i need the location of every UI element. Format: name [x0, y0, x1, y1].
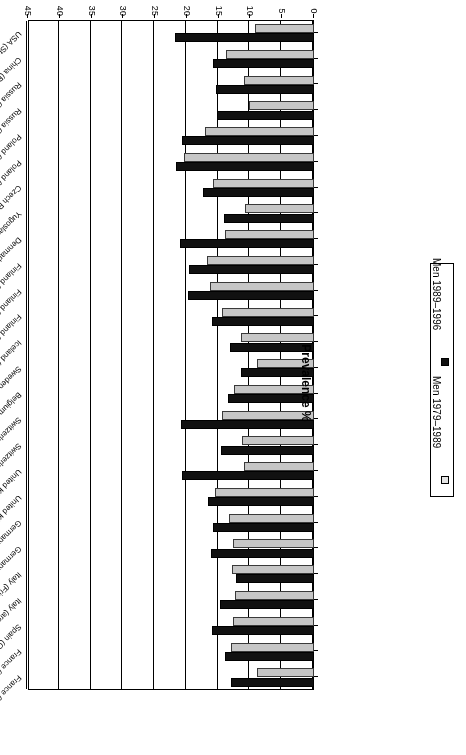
bar-men-1979-1989	[229, 514, 314, 523]
bar-men-1979-1989	[184, 153, 314, 162]
bar-group	[28, 149, 314, 175]
category-label: France (Toulouse)	[0, 673, 23, 725]
category-tick	[314, 83, 318, 84]
bar-group	[28, 278, 314, 304]
bar-men-1979-1989	[207, 256, 314, 265]
bar-group	[28, 200, 314, 226]
category-tick	[314, 135, 318, 136]
bar-men-1979-1989	[249, 101, 314, 110]
value-tick-label: 40	[55, 0, 65, 26]
bar-men-1989-1996	[236, 574, 314, 583]
value-tick-label: 25	[150, 0, 160, 26]
category-tick	[314, 676, 318, 677]
chart-legend: Men 1979–1989Men 1989–1996	[430, 263, 454, 497]
category-tick	[314, 470, 318, 471]
legend-item[interactable]: Men 1989–1996	[431, 256, 453, 366]
bar-group	[28, 510, 314, 536]
legend-label: Men 1979–1989	[431, 376, 442, 448]
bar-group	[28, 72, 314, 98]
bar-men-1989-1996	[224, 214, 314, 223]
value-tick-label: 30	[118, 0, 128, 26]
bar-group	[28, 484, 314, 510]
bar-men-1989-1996	[220, 600, 314, 609]
category-tick	[314, 522, 318, 523]
category-tick	[314, 650, 318, 651]
category-tick	[314, 315, 318, 316]
legend-swatch-men-1989-1996	[441, 358, 449, 366]
bar-men-1979-1989	[233, 539, 314, 548]
bar-group	[28, 355, 314, 381]
category-tick	[314, 109, 318, 110]
value-axis-title: Prevalence %	[299, 283, 313, 483]
bar-men-1979-1989	[231, 643, 314, 652]
value-tick-label: 10	[245, 0, 255, 26]
bar-men-1979-1989	[232, 565, 314, 574]
bar-group	[28, 407, 314, 433]
bar-men-1979-1989	[213, 179, 314, 188]
bar-men-1989-1996	[180, 239, 314, 248]
bar-men-1989-1996	[217, 111, 314, 120]
bar-group	[28, 226, 314, 252]
bar-group	[28, 46, 314, 72]
category-tick	[314, 547, 318, 548]
category-tick	[314, 418, 318, 419]
bar-group	[28, 613, 314, 639]
bar-men-1989-1996	[189, 265, 314, 274]
value-tick-label: 5	[277, 0, 287, 26]
bar-group	[28, 432, 314, 458]
category-tick	[314, 212, 318, 213]
bar-men-1979-1989	[233, 617, 314, 626]
bar-group	[28, 561, 314, 587]
bar-men-1989-1996	[231, 678, 314, 687]
bar-group	[28, 97, 314, 123]
bar-men-1989-1996	[176, 162, 314, 171]
value-tick-label: 20	[182, 0, 192, 26]
bar-men-1979-1989	[225, 230, 314, 239]
bar-group	[28, 664, 314, 690]
bar-men-1979-1989	[215, 488, 314, 497]
bar-men-1989-1996	[211, 549, 314, 558]
bar-men-1989-1996	[188, 291, 314, 300]
bar-group	[28, 638, 314, 664]
bar-men-1989-1996	[212, 626, 314, 635]
bar-men-1979-1989	[257, 668, 314, 677]
bar-group	[28, 303, 314, 329]
bar-men-1989-1996	[213, 59, 314, 68]
bar-men-1989-1996	[203, 188, 314, 197]
gridline-45	[26, 21, 27, 689]
legend-item[interactable]: Men 1979–1989	[431, 374, 453, 484]
bar-men-1979-1989	[245, 204, 314, 213]
category-tick	[314, 290, 318, 291]
category-tick	[314, 444, 318, 445]
bar-group	[28, 175, 314, 201]
category-tick	[314, 264, 318, 265]
chart-figure: 051015202530354045 Prevalence % France (…	[0, 0, 466, 755]
category-tick	[314, 625, 318, 626]
category-tick	[314, 367, 318, 368]
category-tick	[314, 32, 318, 33]
bar-group	[28, 535, 314, 561]
bar-group	[28, 20, 314, 46]
bar-men-1979-1989	[235, 591, 314, 600]
category-tick	[314, 496, 318, 497]
value-tick-label: 0	[309, 0, 319, 26]
value-tick-label: 15	[214, 0, 224, 26]
category-tick	[314, 58, 318, 59]
category-tick	[314, 238, 318, 239]
bar-group	[28, 458, 314, 484]
value-tick-label: 35	[87, 0, 97, 26]
bar-group	[28, 381, 314, 407]
category-tick	[314, 187, 318, 188]
category-tick	[314, 393, 318, 394]
value-axis: 051015202530354045	[28, 0, 314, 18]
bar-men-1979-1989	[205, 127, 314, 136]
bar-men-1989-1996	[225, 652, 314, 661]
bar-men-1989-1996	[216, 85, 314, 94]
bar-men-1989-1996	[175, 33, 314, 42]
bar-group	[28, 587, 314, 613]
bar-men-1989-1996	[182, 136, 314, 145]
bar-men-1989-1996	[209, 497, 315, 506]
bars-layer	[28, 20, 314, 690]
bar-men-1979-1989	[226, 50, 314, 59]
bar-group	[28, 329, 314, 355]
